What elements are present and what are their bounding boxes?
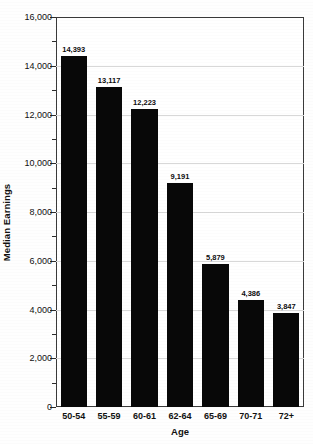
bar[interactable] [131,109,157,407]
x-axis-tick-label: 72+ [269,411,304,421]
bar-value-label: 14,393 [62,46,85,54]
bar[interactable] [61,56,87,407]
x-axis-tick-label: 62-64 [162,411,197,421]
y-axis-tick-label: 0 [47,403,52,412]
bar-slot: 9,191 [167,17,193,407]
x-axis-title: Age [56,426,304,437]
bar-value-label: 9,191 [171,173,190,181]
bar[interactable] [167,183,193,407]
bar[interactable] [96,87,122,407]
y-axis-title: Median Earnings [0,0,14,444]
bar[interactable] [202,264,228,407]
y-axis-tick-label: 12,000 [24,111,52,120]
bar[interactable] [273,313,299,407]
bar-slot: 14,393 [61,17,87,407]
bar-value-label: 4,386 [241,290,260,298]
x-axis-tick-label: 50-54 [56,411,91,421]
y-axis-tick-label: 2,000 [29,354,52,363]
x-axis-tick-label: 70-71 [233,411,268,421]
bar-value-label: 12,223 [133,99,156,107]
bar-slot: 13,117 [96,17,122,407]
x-axis-tick-label: 65-69 [198,411,233,421]
y-axis-tick-label: 6,000 [29,257,52,266]
bar-slot: 3,847 [273,17,299,407]
y-axis-tick-label: 4,000 [29,306,52,315]
bar-value-label: 13,117 [98,77,121,85]
y-axis-tick-label: 8,000 [29,208,52,217]
y-axis-tick-label: 16,000 [24,13,52,22]
bar-slot: 5,879 [202,17,228,407]
x-axis-tick-label: 60-61 [127,411,162,421]
bar[interactable] [238,300,264,407]
bar-chart: Median Earnings 02,0004,0006,0008,00010,… [0,0,313,444]
bar-value-label: 5,879 [206,254,225,262]
y-axis-tick-label: 14,000 [24,62,52,71]
bar-slot: 4,386 [238,17,264,407]
bar-slot: 12,223 [131,17,157,407]
bars-group: 14,39313,11712,2239,1915,8794,3863,847 [56,17,304,407]
x-axis-tick-label: 55-59 [91,411,126,421]
bar-value-label: 3,847 [277,303,296,311]
y-axis-tick-label: 10,000 [24,159,52,168]
y-axis-title-label: Median Earnings [2,183,13,261]
